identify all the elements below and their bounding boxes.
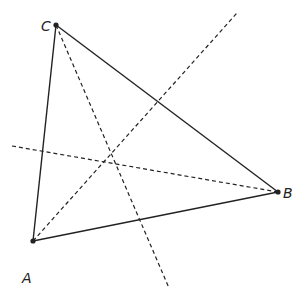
side-BC <box>56 25 278 192</box>
side-CA <box>33 25 56 241</box>
vertex-points <box>30 22 280 243</box>
vertex-B-point <box>275 189 280 194</box>
vertex-A-label: A <box>21 270 32 286</box>
vertex-labels: ABC <box>21 18 293 286</box>
dashed-line-through-B <box>12 146 278 192</box>
vertex-A-point <box>30 238 35 243</box>
triangle-diagram: ABC <box>0 0 306 304</box>
dashed-line-through-C <box>56 25 169 288</box>
vertex-C-point <box>53 22 58 27</box>
dashed-lines <box>12 13 278 288</box>
vertex-B-label: B <box>283 185 293 201</box>
vertex-C-label: C <box>41 18 51 34</box>
side-AB <box>33 192 278 241</box>
